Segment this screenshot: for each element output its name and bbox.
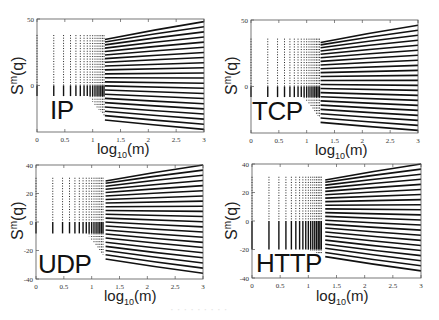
x-tick-label: 0.5 — [274, 137, 283, 145]
y-tick-label: 20 — [242, 189, 250, 197]
x-tick-label: 0 — [250, 282, 254, 290]
y-axis-label: Sm(q) — [222, 56, 241, 95]
x-tick-label: 1 — [90, 283, 94, 291]
x-axis-label: log10(m) — [104, 287, 157, 307]
x-tick-label: 3 — [419, 282, 423, 290]
x-tick-label: 3 — [201, 283, 205, 291]
plot-area: 00.511.522.53500 — [37, 19, 204, 146]
x-axis-label: log10(m) — [315, 141, 368, 161]
y-tick-label: 50 — [241, 17, 249, 25]
x-tick-label: 1 — [307, 282, 311, 290]
protocol-label: TCP — [252, 96, 303, 127]
x-tick-label: 0 — [34, 283, 38, 291]
y-tick-label: 0 — [31, 82, 35, 90]
x-tick-label: 2.5 — [386, 137, 395, 145]
x-tick-label: 0 — [249, 137, 253, 145]
x-tick-label: 2.5 — [388, 282, 397, 290]
x-tick-label: 0.5 — [60, 136, 69, 144]
y-tick-label: 50 — [27, 16, 35, 24]
y-axis-label: Sm(q) — [8, 201, 27, 240]
y-axis-label: Sm(q) — [222, 201, 241, 240]
protocol-label: UDP — [38, 249, 91, 280]
x-tick-label: 0 — [35, 136, 39, 144]
y-tick-label: 0 — [245, 83, 249, 91]
plot-area: 00.511.522.53500 — [251, 20, 418, 147]
x-tick-label: 0.5 — [59, 283, 68, 291]
y-tick-label: -20 — [24, 247, 34, 255]
y-tick-label: 20 — [26, 190, 34, 198]
figure-caption: · · · · · · · · · — [170, 303, 227, 315]
x-axis-label: log10(m) — [316, 287, 369, 307]
protocol-label: HTTP — [256, 248, 322, 279]
y-tick-label: -40 — [240, 275, 250, 283]
y-tick-label: -20 — [240, 246, 250, 254]
y-tick-label: 0 — [30, 219, 34, 227]
y-tick-label: 40 — [26, 162, 34, 170]
protocol-label: IP — [50, 95, 74, 126]
x-tick-label: 3 — [416, 137, 420, 145]
x-axis-label: log10(m) — [97, 140, 150, 160]
x-tick-label: 1 — [305, 137, 309, 145]
x-tick-label: 0.5 — [276, 282, 285, 290]
y-axis-label: Sm(q) — [8, 56, 27, 95]
y-tick-label: 40 — [242, 161, 250, 169]
y-tick-label: 0 — [246, 218, 250, 226]
x-tick-label: 2.5 — [172, 136, 181, 144]
x-tick-label: 1 — [91, 136, 95, 144]
y-tick-label: -40 — [24, 276, 34, 284]
x-tick-label: 2.5 — [171, 283, 180, 291]
x-tick-label: 3 — [202, 136, 206, 144]
